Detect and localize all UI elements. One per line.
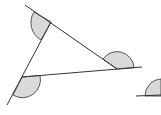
triangle-exterior-angles-diagram	[0, 0, 161, 115]
partial-angle-right-edge	[145, 79, 161, 96]
exterior-angle-right	[103, 52, 134, 69]
bottom-side-extended	[22, 67, 142, 77]
